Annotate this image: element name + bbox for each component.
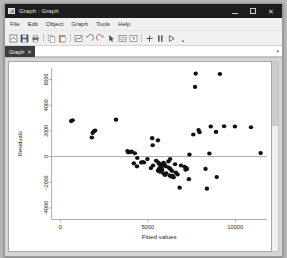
minimize-button[interactable] [226, 4, 244, 18]
scatter-point [150, 143, 154, 147]
scatter-point [156, 138, 160, 142]
save-icon[interactable] [20, 34, 29, 43]
scatter-point [177, 186, 181, 190]
svg-text:T: T [132, 36, 135, 41]
scatter-point [168, 157, 172, 161]
scrollbar-thumb[interactable] [272, 62, 278, 126]
add-marker-icon[interactable] [156, 34, 165, 43]
scatter-point [193, 71, 197, 75]
scatter-point [214, 175, 218, 179]
svg-text:0: 0 [43, 155, 49, 158]
svg-text:0: 0 [59, 225, 62, 231]
scatter-point [187, 153, 191, 157]
pointer-tool-icon[interactable] [107, 34, 116, 43]
scatter-point [203, 167, 207, 171]
scatter-point [207, 151, 211, 155]
undo-icon[interactable] [85, 34, 94, 43]
menu-bar: File Edit Object Graph Tools Help [5, 18, 282, 31]
window-controls: ✕ [226, 4, 280, 18]
toolbar-overflow-icon[interactable] [178, 34, 187, 43]
tab-close-icon[interactable]: ✕ [27, 49, 32, 55]
scatter-plot-svg: -4000-200002000400060000500010000Fitted … [9, 62, 271, 251]
graph-window-icon [8, 7, 16, 15]
chevron-down-icon[interactable]: ▾ [276, 48, 279, 54]
tab-bar-filler: ▾ [35, 46, 282, 57]
scatter-point [170, 169, 174, 173]
scatter-point [249, 125, 253, 129]
scatter-point [160, 168, 164, 172]
svg-text:6000: 6000 [43, 74, 49, 86]
menu-item-edit[interactable]: Edit [28, 21, 38, 27]
title-bar: Graph : Graph ✕ [5, 4, 282, 18]
menu-item-tools[interactable]: Tools [96, 21, 110, 27]
scatter-point [70, 118, 74, 122]
toolbar-separator-3 [141, 34, 142, 42]
redo-icon[interactable] [96, 34, 105, 43]
scatter-point [183, 168, 187, 172]
scatter-point [132, 161, 136, 165]
graph-editor-icon[interactable] [74, 34, 83, 43]
scatter-point [133, 151, 137, 155]
scatter-point [193, 85, 197, 89]
scatter-point [233, 124, 237, 128]
svg-text:-2000: -2000 [43, 175, 49, 189]
svg-text:-4000: -4000 [43, 201, 49, 215]
svg-text:2000: 2000 [43, 125, 49, 137]
svg-text:Residuals: Residuals [17, 131, 23, 156]
toolbar-separator-1 [43, 34, 44, 42]
scatter-point [222, 124, 226, 128]
menu-item-graph[interactable]: Graph [71, 21, 88, 27]
graph-pane[interactable]: -4000-200002000400060000500010000Fitted … [8, 61, 272, 252]
graph-client-area: -4000-200002000400060000500010000Fitted … [5, 58, 282, 256]
scatter-point [197, 130, 201, 134]
scatter-point [150, 136, 154, 140]
menu-item-help[interactable]: Help [118, 21, 130, 27]
scatter-point [145, 157, 149, 161]
play-icon[interactable] [167, 34, 176, 43]
scatter-point [151, 163, 155, 167]
tab-bar: Graph ✕ ▾ [5, 46, 282, 58]
scatter-point [205, 187, 209, 191]
add-line-icon[interactable] [145, 34, 154, 43]
window-title: Graph : Graph [19, 8, 226, 14]
toolbar-separator-2 [70, 34, 71, 42]
scatter-point [114, 118, 118, 122]
tab-graph-label: Graph [9, 49, 24, 55]
scatter-plot: -4000-200002000400060000500010000Fitted … [9, 62, 271, 251]
menu-item-object[interactable]: Object [46, 21, 63, 27]
scatter-point [135, 156, 139, 160]
scatter-point [258, 151, 262, 155]
print-icon[interactable] [31, 34, 40, 43]
scatter-point [187, 177, 191, 181]
svg-text:10000: 10000 [227, 225, 243, 231]
maximize-button[interactable] [244, 4, 262, 18]
svg-text:5000: 5000 [141, 225, 154, 231]
scatter-point [175, 172, 179, 176]
scatter-point [90, 135, 94, 139]
scatter-point [171, 175, 175, 179]
new-graph-icon[interactable] [9, 34, 18, 43]
tab-graph[interactable]: Graph ✕ [5, 46, 35, 57]
scatter-point [173, 162, 177, 166]
scatter-point [191, 132, 195, 136]
toolbar: T [5, 31, 282, 46]
close-button[interactable]: ✕ [262, 4, 280, 18]
copy-icon[interactable] [47, 34, 56, 43]
scatter-point [209, 124, 213, 128]
scatter-point [214, 130, 218, 134]
svg-text:4000: 4000 [43, 99, 49, 111]
graph-window: Graph : Graph ✕ File Edit Object Graph T… [4, 3, 283, 257]
svg-text:Fitted values: Fitted values [142, 234, 177, 240]
vertical-scrollbar[interactable] [272, 61, 279, 252]
scatter-point [142, 160, 146, 164]
text-tool-icon[interactable]: T [129, 34, 138, 43]
menu-item-file[interactable]: File [10, 21, 20, 27]
scatter-point [135, 164, 139, 168]
scatter-point [218, 72, 222, 76]
paste-icon[interactable] [58, 34, 67, 43]
scatter-point [93, 129, 97, 133]
grid-edit-icon[interactable] [118, 34, 127, 43]
